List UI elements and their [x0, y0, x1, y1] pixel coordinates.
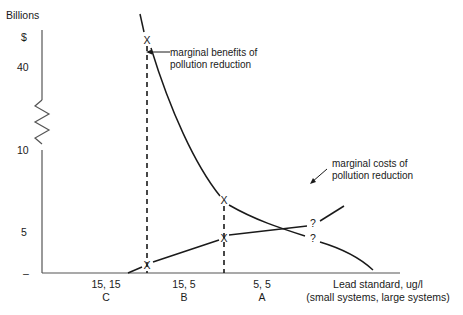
costs-line-end [320, 206, 344, 221]
costs-label-line1: marginal costs of [332, 158, 408, 169]
x-tick-a-option: A [258, 291, 265, 303]
y-tick-10: 10 [17, 144, 29, 156]
y-axis-currency-label: $ [21, 31, 27, 43]
x-tick-b-values: 15, 5 [172, 278, 196, 290]
x-marker-cost-b: X [143, 259, 150, 271]
axis-break-icon [35, 100, 49, 144]
unknown-marker-benefit: ? [310, 232, 316, 244]
x-axis-title-line1: Lead standard, ug/l [333, 278, 423, 290]
x-marker-benefit-a: X [220, 194, 227, 206]
y-tick-5: 5 [21, 226, 27, 238]
y-tick-zero: – [23, 267, 29, 279]
benefits-label-line2: pollution reduction [170, 59, 251, 70]
benefits-curve-mid [151, 48, 220, 196]
x-marker-benefit-b: X [143, 34, 150, 46]
costs-line-segment1 [153, 240, 219, 262]
lead-standard-diagram: Billions $ 40 10 5 – 15, 15 C 15, 5 B 5,… [0, 0, 463, 315]
x-tick-c-values: 15, 15 [91, 278, 120, 290]
benefits-curve-tail [320, 242, 373, 270]
benefits-curve-top [140, 14, 144, 32]
y-axis-unit-label: Billions [6, 9, 39, 21]
x-tick-a-values: 5, 5 [253, 278, 271, 290]
benefits-label-line1: marginal benefits of [170, 47, 257, 58]
x-tick-c-option: C [102, 291, 110, 303]
y-tick-40: 40 [17, 61, 29, 73]
x-axis-title-line2: (small systems, large systems) [306, 291, 450, 303]
unknown-marker-cost: ? [310, 217, 316, 229]
x-tick-b-option: B [180, 291, 187, 303]
costs-line-start [128, 267, 142, 273]
x-marker-cost-a: X [220, 232, 227, 244]
costs-label-line2: pollution reduction [332, 170, 413, 181]
